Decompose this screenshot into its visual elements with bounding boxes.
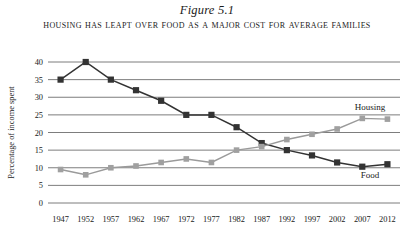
x-axis-tick-label: 1997: [304, 215, 321, 224]
x-axis-tick-label: 1977: [203, 215, 220, 224]
data-point-housing: [58, 167, 64, 173]
data-point-food: [57, 77, 63, 83]
data-point-housing: [259, 144, 265, 150]
series-label-housing: Housing: [355, 102, 386, 112]
x-axis-tick-label: 1992: [278, 215, 295, 224]
x-axis-tick-label: 1967: [153, 215, 170, 224]
data-point-food: [208, 112, 214, 118]
data-point-food: [183, 112, 189, 118]
y-axis-title: Percentage of income spent: [7, 86, 16, 179]
y-axis-tick-label: 10: [35, 164, 43, 173]
data-point-food: [133, 87, 139, 93]
y-axis-tick-label: 40: [35, 58, 43, 67]
x-axis-tick-label: 2007: [354, 215, 371, 224]
data-point-housing: [309, 131, 315, 137]
data-point-food: [158, 98, 164, 104]
data-point-food: [233, 124, 239, 130]
x-axis-tick-label: 1952: [77, 215, 94, 224]
data-point-housing: [284, 137, 290, 143]
x-axis-tick-label: 2002: [329, 215, 346, 224]
data-point-housing: [385, 116, 391, 122]
data-point-housing: [359, 116, 365, 122]
data-point-housing: [83, 172, 89, 178]
data-point-food: [284, 147, 290, 153]
figure-container: Figure 5.1 Housing Has Leapt over Food a…: [0, 0, 414, 232]
x-axis-tick-label: 1972: [178, 215, 195, 224]
data-point-housing: [158, 160, 164, 166]
x-axis-tick-label: 1982: [228, 215, 245, 224]
series-label-food: Food: [361, 170, 380, 180]
x-axis-tick-label: 1957: [102, 215, 119, 224]
data-point-food: [334, 159, 340, 165]
data-point-food: [108, 77, 114, 83]
data-point-housing: [133, 163, 139, 169]
data-point-food: [384, 161, 390, 167]
x-axis-tick-label: 1947: [52, 215, 69, 224]
line-chart: 0510152025303540Percentage of income spe…: [0, 55, 414, 232]
y-axis-tick-label: 30: [35, 93, 43, 102]
y-axis-tick-label: 35: [35, 76, 43, 85]
data-point-housing: [334, 126, 340, 132]
data-point-food: [309, 152, 315, 158]
y-axis-tick-label: 5: [39, 181, 43, 190]
x-axis-tick-label: 1987: [253, 215, 270, 224]
y-axis-tick-label: 0: [39, 199, 43, 208]
figure-number: Figure 5.1: [0, 3, 414, 17]
data-point-housing: [209, 160, 215, 166]
figure-title: Housing Has Leapt over Food as a Major C…: [0, 18, 414, 33]
x-axis-tick-label: 2012: [379, 215, 396, 224]
data-point-food: [83, 59, 89, 65]
x-axis-tick-label: 1962: [128, 215, 145, 224]
chart-plot-area: 0510152025303540Percentage of income spe…: [0, 55, 414, 232]
y-axis-tick-label: 25: [35, 111, 43, 120]
data-point-housing: [108, 165, 114, 171]
data-point-housing: [234, 147, 240, 153]
y-axis-tick-label: 20: [35, 129, 43, 138]
data-point-housing: [183, 156, 189, 162]
y-axis-tick-label: 15: [35, 146, 43, 155]
figure-header: Figure 5.1 Housing Has Leapt over Food a…: [0, 0, 414, 33]
